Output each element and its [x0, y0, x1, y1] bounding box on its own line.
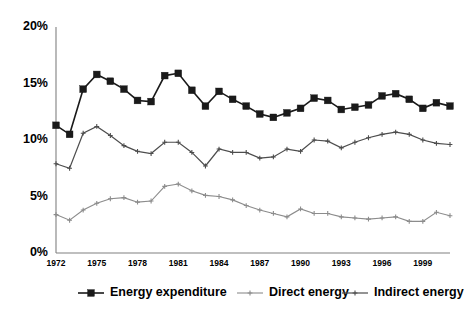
data-point-marker [229, 96, 236, 103]
x-axis-tick-label: 1975 [87, 258, 106, 268]
data-point-marker [122, 195, 127, 200]
data-point-marker [311, 95, 318, 102]
x-axis-tick-label: 1990 [291, 258, 310, 268]
data-point-marker [256, 111, 263, 118]
data-point-marker [392, 90, 399, 97]
data-point-marker [107, 78, 114, 85]
data-point-marker [257, 156, 262, 161]
data-point-marker [108, 196, 113, 201]
x-axis-tick-labels: 1972197519781981198419871990199319961999 [47, 258, 433, 268]
data-point-marker [230, 150, 235, 155]
data-point-marker [380, 132, 385, 137]
series-energy-expenditure [53, 70, 454, 138]
data-point-marker [203, 193, 208, 198]
data-point-marker [67, 166, 72, 171]
data-point-marker [80, 86, 87, 93]
data-point-marker [161, 72, 168, 79]
data-point-marker [54, 161, 59, 166]
legend-label: Direct energy [269, 285, 349, 299]
data-point-marker [407, 132, 412, 137]
data-point-marker [257, 208, 262, 213]
data-point-marker [433, 99, 440, 106]
data-point-marker [352, 104, 359, 111]
data-point-marker [270, 114, 277, 121]
data-point-marker [434, 141, 439, 146]
series-direct-energy [54, 182, 453, 224]
data-point-marker [447, 103, 454, 110]
data-point-marker [134, 97, 141, 104]
data-point-marker [188, 87, 195, 94]
data-point-marker [54, 212, 59, 217]
y-axis-tick-label: 15% [23, 76, 48, 90]
data-point-marker [393, 214, 398, 219]
data-point-marker [285, 147, 290, 152]
legend-marker [353, 291, 358, 296]
y-axis-tick-label: 10% [23, 132, 48, 146]
series-line [56, 126, 450, 168]
data-point-marker [353, 216, 358, 221]
data-point-marker [325, 211, 330, 216]
data-point-marker [419, 105, 426, 112]
data-point-marker [366, 135, 371, 140]
series-line [56, 73, 450, 134]
y-axis-tick-label: 0% [30, 245, 48, 259]
data-point-marker [271, 211, 276, 216]
data-point-marker [93, 71, 100, 78]
data-point-marker [448, 142, 453, 147]
legend-marker [88, 290, 95, 297]
x-axis-tick-label: 1978 [128, 258, 147, 268]
data-point-marker [217, 194, 222, 199]
y-axis-tick-labels: 0%5%10%15%20% [23, 19, 48, 259]
data-point-marker [297, 105, 304, 112]
data-point-marker [380, 216, 385, 221]
data-point-marker [202, 103, 209, 110]
data-point-marker [407, 219, 412, 224]
data-point-marker [339, 214, 344, 219]
y-axis-tick-label: 20% [23, 19, 48, 33]
data-point-marker [298, 207, 303, 212]
data-point-marker [285, 214, 290, 219]
data-point-marker [189, 188, 194, 193]
legend-label: Energy expenditure [110, 285, 227, 299]
legend-marker [248, 291, 253, 296]
data-point-marker [284, 109, 291, 116]
x-axis-tick-label: 1993 [332, 258, 351, 268]
series-indirect-energy [54, 124, 453, 171]
data-point-marker [339, 146, 344, 151]
data-point-marker [135, 149, 140, 154]
data-point-marker [325, 139, 330, 144]
data-point-marker [176, 182, 181, 187]
data-point-marker [148, 98, 155, 105]
legend-item-energy-expenditure[interactable]: Energy expenditure [78, 285, 227, 299]
data-point-marker [94, 201, 99, 206]
data-series-layer [53, 70, 454, 224]
series-line [56, 184, 450, 221]
data-point-marker [366, 217, 371, 222]
data-point-marker [230, 197, 235, 202]
data-point-marker [312, 211, 317, 216]
data-point-marker [121, 86, 128, 93]
data-point-marker [243, 103, 250, 110]
y-axis-tick-label: 5% [30, 189, 48, 203]
x-axis-tick-label: 1999 [413, 258, 432, 268]
x-axis-tick-label: 1987 [250, 258, 269, 268]
chart-legend: Energy expenditureDirect energyIndirect … [78, 285, 464, 299]
data-point-marker [365, 102, 372, 109]
data-point-marker [66, 131, 73, 138]
data-point-marker [53, 122, 60, 129]
legend-item-direct-energy[interactable]: Direct energy [237, 285, 349, 299]
chart-container: 0%5%10%15%20% 19721975197819811984198719… [0, 0, 474, 315]
data-point-marker [338, 106, 345, 113]
data-point-marker [353, 140, 358, 145]
legend-label: Indirect energy [374, 285, 464, 299]
data-point-marker [81, 131, 86, 136]
x-axis-tick-label: 1984 [210, 258, 229, 268]
data-point-marker [216, 88, 223, 95]
data-point-marker [271, 155, 276, 160]
data-point-marker [244, 150, 249, 155]
data-point-marker [379, 93, 386, 100]
data-point-marker [324, 97, 331, 104]
legend-item-indirect-energy[interactable]: Indirect energy [342, 285, 464, 299]
x-axis-tick-label: 1972 [47, 258, 66, 268]
data-point-marker [244, 203, 249, 208]
